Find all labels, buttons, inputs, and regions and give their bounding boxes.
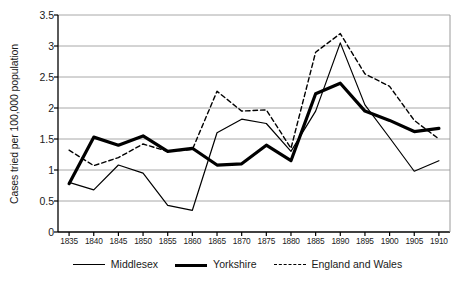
y-axis-title: Cases tried per 100,000 population xyxy=(8,24,20,224)
y-tick-label: 0.5 xyxy=(28,196,54,207)
y-tick-label: 3 xyxy=(28,41,54,52)
data-series-group xyxy=(69,34,439,211)
legend-label: Middlesex xyxy=(111,258,158,270)
legend-item-middlesex: Middlesex xyxy=(73,258,158,270)
legend-label: Yorkshire xyxy=(213,258,256,270)
legend-item-england-and-wales: England and Wales xyxy=(274,258,403,270)
legend-label: England and Wales xyxy=(312,258,403,270)
thick-solid-line-icon xyxy=(175,259,207,269)
x-tick-label: 1910 xyxy=(424,236,454,246)
axis-lines xyxy=(58,15,450,232)
series-line-england-and-wales xyxy=(69,34,439,166)
series-line-yorkshire xyxy=(69,83,439,183)
y-tick-label: 1 xyxy=(28,165,54,176)
y-tick-label: 2 xyxy=(28,103,54,114)
y-axis-tick-labels: 0 0.5 1 1.5 2 2.5 3 3.5 xyxy=(26,0,54,284)
y-tick-label: 0 xyxy=(28,227,54,238)
gridlines xyxy=(58,15,450,201)
line-chart: Cases tried per 100,000 population 0 0.5… xyxy=(0,0,475,284)
series-line-middlesex xyxy=(69,43,439,210)
chart-legend: Middlesex Yorkshire England and Wales xyxy=(0,258,475,270)
y-tick-label: 1.5 xyxy=(28,134,54,145)
dashed-line-icon xyxy=(274,259,306,269)
thin-solid-line-icon xyxy=(73,259,105,269)
y-tick-label: 2.5 xyxy=(28,72,54,83)
legend-item-yorkshire: Yorkshire xyxy=(175,258,256,270)
y-tick-label: 3.5 xyxy=(28,10,54,21)
